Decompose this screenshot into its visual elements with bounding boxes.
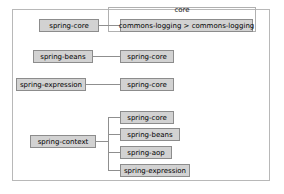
node-tree-child-spring-aop[interactable]: spring-aop: [120, 146, 172, 159]
tree-branch-2: [108, 134, 120, 135]
tree-branch-3: [108, 152, 120, 153]
tree-branch-4: [108, 170, 120, 171]
node-spring-expression-row3[interactable]: spring-expression: [16, 78, 86, 91]
tree-branch-1: [108, 117, 120, 118]
tree-trunk: [108, 117, 109, 170]
node-commons-logging-row1[interactable]: commons-logging > commons-logging: [120, 19, 253, 32]
connector-row2: [93, 56, 120, 57]
connector-row1: [99, 25, 120, 26]
node-spring-beans-row2[interactable]: spring-beans: [33, 50, 93, 63]
node-tree-child-spring-core[interactable]: spring-core: [120, 111, 174, 124]
connector-row3: [86, 84, 120, 85]
diagram-canvas: core spring-core commons-logging > commo…: [0, 0, 284, 194]
tree-root-stub: [96, 141, 108, 142]
node-spring-core-row3[interactable]: spring-core: [120, 78, 174, 91]
node-spring-core-row2[interactable]: spring-core: [120, 50, 174, 63]
core-group-title: core: [108, 6, 256, 15]
node-tree-child-spring-beans[interactable]: spring-beans: [120, 128, 180, 141]
node-spring-core-row1[interactable]: spring-core: [39, 19, 99, 32]
node-tree-child-spring-expression[interactable]: spring-expression: [120, 164, 190, 177]
node-spring-context-root[interactable]: spring-context: [30, 135, 96, 148]
